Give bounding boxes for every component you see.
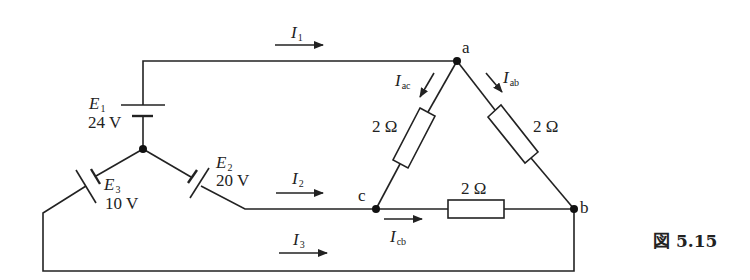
current-iab-label: Iab [503,69,519,88]
source-e3-symbol: E3 [104,176,120,195]
source-e1-symbol: E1 [89,95,105,114]
battery-e3-short-plate [91,169,100,184]
wire-rab-to-b [531,158,574,209]
node-c-label: c [358,187,366,204]
current-icb-label: Icb [390,228,406,247]
node-c-dot [372,205,380,213]
figure-caption: 図 5.15 [653,233,717,250]
resistor-ab [488,105,538,163]
battery-e2-long-plate [190,168,209,198]
wire-rac-to-c [376,164,400,209]
wire-a-to-rac [428,61,457,112]
resistor-cb [448,200,504,218]
source-e2-value: 20 V [216,172,249,189]
resistor-ac [393,108,435,168]
arrow-iab [486,73,502,92]
circuit-figure: a b c E1 24 V E2 20 V E3 10 V 2 Ω 2 Ω 2 … [0,0,750,280]
wire-center-to-e3 [96,149,143,176]
current-i3-label: I3 [293,231,305,250]
node-a-label: a [462,39,470,56]
node-a-dot [453,57,461,65]
resistor-ac-label: 2 Ω [372,118,397,135]
wire-a-to-rab [457,61,495,110]
source-e3-value: 10 V [105,195,138,212]
arrow-iac [420,73,434,97]
node-center-dot [139,145,147,153]
circuit-diagram [0,0,750,280]
node-b-label: b [580,199,589,216]
current-i2-label: I2 [292,170,304,189]
current-iac-label: Iac [395,72,411,91]
source-e1-value: 24 V [88,114,121,131]
wire-center-to-e2 [143,149,191,177]
resistor-cb-label: 2 Ω [461,180,486,197]
current-i1-label: I1 [291,24,303,43]
resistor-ab-label: 2 Ω [533,118,558,135]
node-b-dot [570,205,578,213]
